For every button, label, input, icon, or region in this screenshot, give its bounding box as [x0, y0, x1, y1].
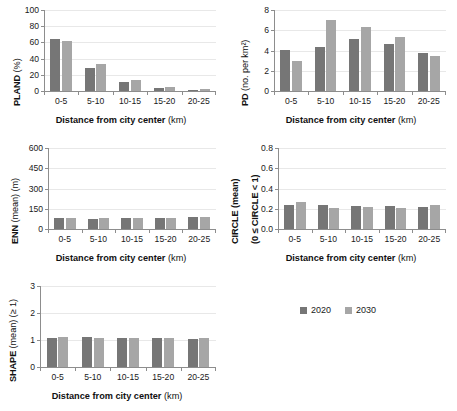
x-axis-line	[40, 367, 216, 368]
gridline	[48, 148, 216, 149]
legend-swatch-2030-icon	[345, 307, 352, 314]
bar-shape-5to10-2030	[94, 338, 104, 367]
y-tick-label: 20	[29, 70, 39, 80]
x-axis-title-pd: Distance from city center (km)	[256, 115, 446, 125]
chart-panel-circle: CIRCLE (mean) (0 ≤ CIRCLE < 1) 0.00.20.4…	[230, 140, 457, 274]
legend: 2020 2030	[300, 305, 376, 315]
bar-enn-5to10-2030	[99, 218, 109, 229]
x-axis-title-pd-unit: (km)	[398, 115, 416, 125]
x-tick-label: 5-10	[317, 96, 334, 106]
bar-shape-10to15-2020	[117, 338, 127, 367]
y-tick-label: 8	[264, 5, 269, 15]
y-axis-title-circle-bold: CIRCLE (mean)	[230, 178, 240, 244]
x-tick-mark	[278, 230, 279, 233]
y-tick-label: 2	[30, 308, 35, 318]
y-axis-title-pd-bold: PD	[240, 93, 250, 106]
bar-circle-5to10-2020	[318, 205, 328, 229]
y-axis-title-circle-range: (0 ≤ CIRCLE < 1)	[250, 174, 260, 244]
x-tick-label: 5-10	[90, 234, 107, 244]
gridline	[44, 26, 216, 27]
plot-area-enn: 01503004506000-55-1010-1515-2020-25	[48, 148, 216, 230]
bar-shape-20to25-2020	[188, 339, 198, 367]
bar-shape-0to5-2030	[58, 337, 68, 368]
x-tick-label: 0-5	[59, 234, 71, 244]
x-tick-mark	[113, 92, 114, 95]
x-axis-title-pd-bold: Distance from city center	[286, 115, 396, 125]
x-axis-title-circle: Distance from city center (km)	[256, 253, 446, 263]
bar-pd-0to5-2030	[292, 61, 302, 91]
y-axis-title-shape-bold: SHAPE	[8, 351, 18, 382]
y-axis-title-pland-bold: PLAND	[12, 75, 22, 106]
gridline	[274, 10, 446, 11]
x-axis-title-shape-unit: (km)	[164, 391, 182, 401]
x-tick-mark	[75, 368, 76, 371]
bar-pd-10to15-2020	[349, 39, 359, 91]
plot-area-shape: 01230-55-1010-1515-2020-25	[40, 286, 216, 368]
legend-label-2030: 2030	[356, 305, 376, 315]
bar-enn-20to25-2030	[200, 217, 210, 229]
x-tick-label: 10-15	[351, 234, 373, 244]
y-axis-line	[48, 148, 49, 230]
bar-enn-10to15-2020	[121, 218, 131, 229]
x-tick-mark	[215, 92, 216, 95]
bar-pland-5to10-2020	[85, 68, 95, 91]
x-axis-line	[44, 91, 216, 92]
y-tick-label: 60	[29, 37, 39, 47]
x-tick-mark	[345, 230, 346, 233]
y-axis-line	[274, 10, 275, 92]
chart-panel-enn: ENN (mean) (m) 01503004506000-55-1010-15…	[0, 140, 228, 274]
x-axis-title-enn: Distance from city center (km)	[26, 253, 216, 263]
gridline	[48, 209, 216, 210]
gridline	[278, 148, 446, 149]
x-tick-label: 15-20	[383, 96, 405, 106]
x-tick-label: 20-25	[188, 96, 210, 106]
y-tick-label: 2	[264, 66, 269, 76]
chart-panel-shape: SHAPE (mean) (≥ 1) 01230-55-1010-1515-20…	[0, 278, 228, 411]
y-tick-label: 0	[30, 362, 35, 372]
legend-item-2020: 2020	[300, 305, 331, 315]
x-tick-mark	[44, 92, 45, 95]
x-tick-mark	[149, 230, 150, 233]
y-axis-title-pd-unit: (no. per km²)	[240, 40, 250, 91]
legend-swatch-2020-icon	[300, 307, 307, 314]
x-axis-title-shape: Distance from city center (km)	[22, 391, 212, 401]
x-tick-mark	[445, 92, 446, 95]
bar-circle-10to15-2030	[363, 207, 373, 229]
legend-label-2020: 2020	[311, 305, 331, 315]
bar-pland-5to10-2030	[96, 64, 106, 91]
x-tick-label: 5-10	[320, 234, 337, 244]
bar-circle-5to10-2030	[329, 208, 339, 229]
bar-circle-0to5-2030	[296, 202, 306, 229]
y-tick-label: 600	[29, 143, 43, 153]
bar-pd-20to25-2020	[418, 53, 428, 91]
x-tick-label: 10-15	[117, 372, 139, 382]
legend-item-2030: 2030	[345, 305, 376, 315]
x-tick-mark	[412, 230, 413, 233]
bar-shape-15to20-2030	[164, 338, 174, 367]
x-tick-label: 20-25	[188, 234, 210, 244]
x-tick-mark	[82, 230, 83, 233]
y-tick-label: 0	[264, 86, 269, 96]
x-tick-mark	[308, 92, 309, 95]
y-tick-label: 450	[29, 163, 43, 173]
gridline	[44, 10, 216, 11]
x-tick-label: 0-5	[55, 96, 67, 106]
y-tick-label: 1	[30, 335, 35, 345]
bar-enn-20to25-2020	[188, 217, 198, 229]
y-tick-label: 150	[29, 204, 43, 214]
bar-enn-0to5-2020	[54, 218, 64, 229]
bar-circle-20to25-2030	[430, 205, 440, 229]
x-axis-title-pland: Distance from city center (km)	[26, 115, 216, 125]
bar-enn-15to20-2020	[155, 218, 165, 229]
bar-pd-15to20-2030	[395, 37, 405, 91]
bar-circle-15to20-2030	[396, 208, 406, 229]
y-tick-label: 0.8	[261, 143, 273, 153]
bar-shape-20to25-2030	[199, 338, 209, 367]
x-tick-label: 0-5	[289, 234, 301, 244]
gridline	[40, 313, 216, 314]
bar-shape-0to5-2020	[47, 338, 57, 367]
x-tick-mark	[412, 92, 413, 95]
x-tick-label: 20-25	[418, 234, 440, 244]
bar-pland-0to5-2020	[50, 39, 60, 91]
x-axis-title-pland-bold: Distance from city center	[56, 115, 166, 125]
